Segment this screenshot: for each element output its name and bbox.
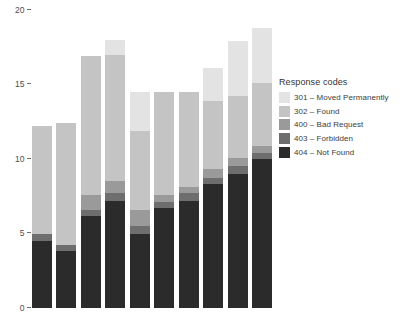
bar [179, 92, 199, 308]
legend-swatch-icon [279, 133, 290, 144]
bar-segment-404 [228, 174, 248, 308]
bar-segment-404 [179, 201, 199, 308]
bar-segment-302 [32, 126, 52, 233]
bar-segment-400 [179, 187, 199, 193]
bar-segment-301 [105, 40, 125, 55]
legend-swatch-icon [279, 106, 290, 117]
bar-segment-403 [81, 210, 101, 216]
y-axis-tick-label: 15 [15, 79, 24, 90]
legend-title: Response codes [279, 77, 403, 87]
bar-segment-302 [252, 83, 272, 146]
y-axis-tick-label: 20 [15, 5, 24, 16]
bar-segment-404 [130, 234, 150, 309]
bar-segment-302 [154, 92, 174, 195]
bar-segment-403 [105, 193, 125, 200]
bar [154, 92, 174, 308]
bar-segment-400 [228, 158, 248, 167]
legend-item-label: 301 – Moved Permanently [294, 93, 389, 102]
bar [130, 92, 150, 308]
bar [105, 40, 125, 308]
bar-segment-400 [154, 195, 174, 202]
bar [81, 56, 101, 308]
y-axis-tick-mark [27, 158, 31, 159]
legend-items: 301 – Moved Permanently302 – Found400 – … [279, 91, 403, 159]
bar-segment-403 [32, 234, 52, 241]
y-axis-tick-label: 5 [20, 228, 25, 239]
bar-segment-302 [130, 131, 150, 210]
stacked-bar-chart: 05101520 Response codes 301 – Moved Perm… [0, 0, 403, 329]
legend-swatch-icon [279, 92, 290, 103]
legend-item[interactable]: 301 – Moved Permanently [279, 91, 403, 105]
bar-segment-302 [81, 56, 101, 195]
y-axis-tick: 10 [15, 154, 32, 165]
legend-item[interactable]: 404 – Not Found [279, 145, 403, 159]
bar-segment-302 [203, 101, 223, 170]
bar [203, 68, 223, 308]
y-axis-tick-label: 0 [20, 303, 25, 314]
bar-segment-400 [81, 195, 101, 210]
y-axis-tick-mark [27, 307, 31, 308]
bar-segment-400 [203, 169, 223, 178]
bar-segment-301 [130, 92, 150, 131]
y-axis-tick: 5 [20, 228, 32, 239]
bar-segment-301 [252, 28, 272, 83]
legend-item[interactable]: 400 – Bad Request [279, 118, 403, 132]
bar-segment-404 [32, 241, 52, 308]
bar-segment-302 [105, 55, 125, 182]
bar-segment-403 [130, 226, 150, 233]
bar-segment-403 [228, 166, 248, 173]
bar-segment-404 [252, 159, 272, 308]
y-axis-tick: 20 [15, 5, 32, 16]
bar-segment-400 [130, 210, 150, 226]
y-axis: 05101520 [0, 0, 32, 329]
chart-legend: Response codes 301 – Moved Permanently30… [279, 77, 403, 159]
bar-segment-301 [228, 41, 248, 96]
bar-segment-301 [203, 68, 223, 101]
y-axis-tick-mark [27, 232, 31, 233]
legend-item-label: 403 – Forbidden [294, 134, 353, 143]
plot-area [32, 10, 272, 308]
legend-item-label: 404 – Not Found [294, 148, 354, 157]
bar-segment-400 [105, 181, 125, 193]
bar [32, 126, 52, 308]
legend-item[interactable]: 403 – Forbidden [279, 132, 403, 146]
y-axis-tick-label: 10 [15, 154, 24, 165]
bar-segment-403 [203, 178, 223, 184]
bar-segment-302 [228, 96, 248, 157]
bar-segment-403 [252, 153, 272, 159]
bar-segment-404 [81, 216, 101, 308]
legend-item-label: 302 – Found [294, 107, 339, 116]
y-axis-tick: 15 [15, 79, 32, 90]
bar-group [32, 10, 272, 308]
y-axis-tick: 0 [20, 303, 32, 314]
bar-segment-404 [105, 201, 125, 308]
legend-swatch-icon [279, 147, 290, 158]
bar [56, 123, 76, 308]
bar [252, 28, 272, 308]
legend-item-label: 400 – Bad Request [294, 120, 363, 129]
y-axis-tick-mark [27, 83, 31, 84]
bar [228, 41, 248, 308]
legend-item[interactable]: 302 – Found [279, 105, 403, 119]
bar-segment-400 [252, 146, 272, 153]
bar-segment-404 [56, 251, 76, 308]
legend-swatch-icon [279, 119, 290, 130]
bar-segment-403 [56, 245, 76, 251]
bar-segment-403 [179, 193, 199, 200]
bar-segment-404 [203, 184, 223, 308]
bar-segment-302 [179, 92, 199, 187]
bar-segment-404 [154, 208, 174, 308]
y-axis-tick-mark [27, 9, 31, 10]
bar-segment-302 [56, 123, 76, 245]
bar-segment-403 [154, 202, 174, 208]
